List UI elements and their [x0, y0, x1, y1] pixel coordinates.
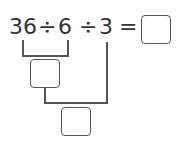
bracket-left-line: [22, 40, 24, 56]
operand-3: 3: [99, 16, 113, 38]
equals-sign: =: [119, 16, 137, 38]
connector-right-line: [106, 42, 108, 103]
operand-36: 36: [9, 16, 37, 38]
operand-6: 6: [58, 16, 72, 38]
connector-bottom-line: [44, 102, 108, 104]
step1-box[interactable]: [30, 59, 60, 88]
bracket-right-line: [67, 40, 69, 56]
answer-box[interactable]: [141, 15, 171, 44]
divide-sign-1: ÷: [38, 16, 56, 38]
bracket-bottom-line: [22, 55, 69, 57]
divide-sign-2: ÷: [79, 16, 97, 38]
step2-box[interactable]: [61, 107, 91, 136]
connector-left-line: [44, 88, 46, 103]
